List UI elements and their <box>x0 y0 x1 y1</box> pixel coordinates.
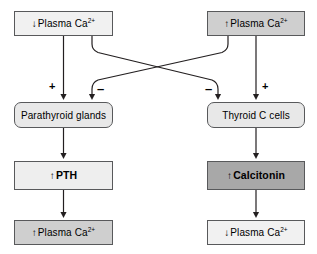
node-result-low-plasma-ca-label: ↓Plasma Ca2+ <box>224 227 288 238</box>
sign-minus-right: – <box>205 82 212 95</box>
sign-minus-left: – <box>97 82 104 95</box>
node-thyroid-c-cells-label: Thyroid C cells <box>222 110 290 121</box>
node-low-plasma-ca-label: ↓Plasma Ca2+ <box>32 18 96 29</box>
edge-lowca-inhibits-thyroidc <box>92 36 218 97</box>
node-pth: ↑PTH <box>14 161 113 190</box>
calcium-homeostasis-diagram: ↓Plasma Ca2+ ↑Plasma Ca2+ + – – + Parath… <box>0 0 317 254</box>
sign-plus-right: + <box>262 81 268 92</box>
node-parathyroid-glands-label: Parathyroid glands <box>21 110 106 121</box>
charge-superscript: 2+ <box>88 17 96 24</box>
node-calcitonin: ↑Calcitonin <box>207 161 305 190</box>
sign-plus-left: + <box>49 81 55 92</box>
charge-superscript: 2+ <box>88 226 96 233</box>
node-calcitonin-label: ↑Calcitonin <box>227 170 285 182</box>
node-result-low-plasma-ca-text: Plasma Ca <box>230 227 280 238</box>
node-low-plasma-ca: ↓Plasma Ca2+ <box>14 11 113 36</box>
node-pth-label: ↑PTH <box>50 170 77 182</box>
node-result-high-plasma-ca: ↑Plasma Ca2+ <box>14 220 113 245</box>
node-high-plasma-ca: ↑Plasma Ca2+ <box>207 11 305 36</box>
node-parathyroid-glands: Parathyroid glands <box>14 102 113 128</box>
node-thyroid-c-cells: Thyroid C cells <box>207 102 305 128</box>
node-pth-text: PTH <box>56 169 77 181</box>
charge-superscript: 2+ <box>280 17 288 24</box>
node-result-low-plasma-ca: ↓Plasma Ca2+ <box>207 220 305 245</box>
charge-superscript: 2+ <box>280 226 288 233</box>
node-calcitonin-text: Calcitonin <box>233 169 285 181</box>
node-result-high-plasma-ca-text: Plasma Ca <box>38 227 88 238</box>
node-high-plasma-ca-text: Plasma Ca <box>230 18 280 29</box>
node-high-plasma-ca-label: ↑Plasma Ca2+ <box>224 18 288 29</box>
node-low-plasma-ca-text: Plasma Ca <box>38 18 88 29</box>
node-result-high-plasma-ca-label: ↑Plasma Ca2+ <box>32 227 96 238</box>
